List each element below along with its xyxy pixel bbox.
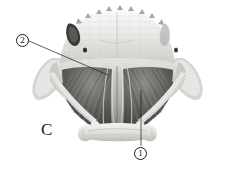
anatomical-figure: 2 1 C bbox=[0, 0, 235, 173]
callout-label-1: 1 bbox=[134, 147, 147, 160]
anatomy-illustration bbox=[0, 0, 235, 173]
edge-vignette bbox=[0, 0, 235, 173]
callout-label-2: 2 bbox=[16, 34, 29, 47]
panel-letter: C bbox=[41, 120, 52, 140]
